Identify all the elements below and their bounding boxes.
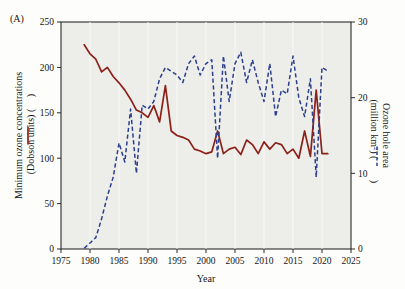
x-tick-label: 2020: [313, 256, 332, 266]
x-tick-label: 1985: [110, 256, 129, 266]
panel-label: (A): [10, 13, 24, 25]
left-y-axis: 050100150200250: [40, 17, 61, 254]
right-y-tick-label: 10: [358, 169, 368, 179]
left-axis-title-close-paren: ): [25, 94, 37, 97]
x-axis: 1975198019851990199520002005201020152020…: [52, 249, 361, 284]
chart-canvas: 1975198019851990199520002005201020152020…: [0, 0, 405, 289]
left-y-tick-label: 50: [45, 199, 55, 209]
right-axis-title-paren-group: ): [368, 180, 380, 183]
ozone-chart-figure: 1975198019851990199520002005201020152020…: [0, 0, 405, 289]
right-axis-title-close-paren: ): [368, 180, 380, 183]
right-y-tick-label: 20: [358, 93, 368, 103]
right-y-tick-label: 30: [358, 17, 368, 27]
x-tick-label: 2000: [197, 256, 216, 266]
left-axis-title-line2: (Dobson units) (: [25, 108, 37, 174]
right-axis-title-line2: (million km2) (: [368, 100, 381, 161]
x-tick-label: 2025: [342, 256, 361, 266]
x-tick-label: 1975: [52, 256, 71, 266]
left-axis-title-paren-group: ): [25, 94, 37, 97]
right-axis-title-line1: Ozone hole area: [381, 103, 392, 169]
left-axis-title-line1: Minimum ozone concentrations: [13, 72, 24, 199]
x-tick-label: 1995: [168, 256, 187, 266]
x-tick-label: 2010: [255, 256, 274, 266]
left-y-tick-label: 200: [40, 63, 55, 73]
x-tick-label: 2015: [284, 256, 303, 266]
right-y-tick-label: 0: [358, 244, 363, 254]
x-tick-label: 1980: [81, 256, 100, 266]
left-y-tick-label: 0: [49, 244, 54, 254]
left-y-tick-label: 100: [40, 154, 55, 164]
left-axis-title-group: Minimum ozone concentrations(Dobson unit…: [13, 72, 37, 199]
right-y-axis: 0102030: [351, 17, 368, 254]
x-tick-label: 2005: [226, 256, 245, 266]
x-axis-title: Year: [197, 273, 216, 284]
right-axis-title-group: Ozone hole area(million km2) (: [368, 100, 392, 169]
left-y-tick-label: 250: [40, 17, 55, 27]
left-y-tick-label: 150: [40, 108, 55, 118]
x-tick-label: 1990: [139, 256, 158, 266]
